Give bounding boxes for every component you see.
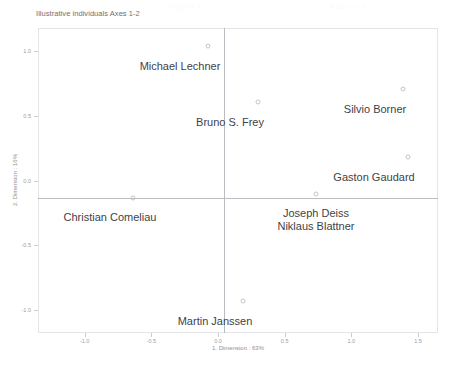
data-point-label: Bruno S. Frey: [196, 116, 264, 129]
data-point-marker[interactable]: [401, 87, 406, 92]
data-point-label: Niklaus Blattner: [277, 220, 354, 233]
x-tick-mark: [418, 333, 419, 337]
data-point-marker[interactable]: [241, 299, 246, 304]
ghost-header-right: Axes 1-2: [330, 2, 366, 11]
data-point-label: Martin Janssen: [178, 315, 253, 328]
data-point-marker[interactable]: [131, 196, 136, 201]
data-point-label: Gaston Gaudard: [333, 171, 414, 184]
x-tick-mark: [351, 333, 352, 337]
data-point-marker[interactable]: [256, 100, 261, 105]
horizontal-zero-axis: [38, 198, 438, 199]
y-tick-label: -0.5: [22, 242, 31, 248]
x-tick-label: -0.5: [147, 338, 156, 344]
y-tick-mark: [34, 181, 38, 182]
data-point-label: Joseph Deiss: [283, 207, 349, 220]
x-tick-label: 0.5: [281, 338, 289, 344]
data-point-marker[interactable]: [206, 44, 211, 49]
x-tick-mark: [285, 333, 286, 337]
y-tick-label: 1.0: [23, 48, 31, 54]
x-tick-label: 0.0: [214, 338, 222, 344]
x-tick-label: 1.0: [348, 338, 356, 344]
y-tick-label: 0.5: [23, 113, 31, 119]
data-point-label: Christian Comeliau: [64, 211, 157, 224]
y-tick-mark: [34, 51, 38, 52]
x-tick-mark: [151, 333, 152, 337]
y-tick-label: 0.0: [23, 178, 31, 184]
y-axis-label: 2. Dimension : 16%: [12, 154, 18, 206]
data-point-marker[interactable]: [314, 192, 319, 197]
data-point-marker[interactable]: [406, 155, 411, 160]
x-tick-label: 1.5: [414, 338, 422, 344]
vertical-zero-axis: [224, 28, 225, 333]
y-tick-label: -1.0: [22, 307, 31, 313]
x-tick-mark: [218, 333, 219, 337]
y-tick-mark: [34, 116, 38, 117]
data-point-label: Michael Lechner: [140, 60, 221, 73]
x-tick-mark: [85, 333, 86, 337]
ghost-header-left: Figure 4: [168, 2, 202, 11]
chart-title: Illustrative individuals Axes 1-2: [36, 9, 140, 18]
y-tick-mark: [34, 310, 38, 311]
data-point-label: Silvio Borner: [344, 103, 406, 116]
y-tick-mark: [34, 245, 38, 246]
x-axis-label: 1. Dimension : 63%: [212, 345, 264, 351]
x-tick-label: -1.0: [80, 338, 89, 344]
